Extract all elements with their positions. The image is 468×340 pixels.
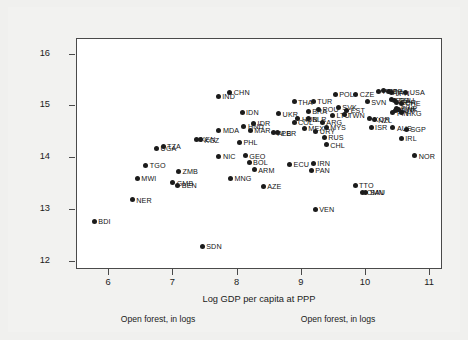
scatter-point-label: IRL xyxy=(405,135,417,142)
scatter-point-label: PHL xyxy=(243,139,257,146)
scatter-point xyxy=(324,125,329,130)
x-axis-tick-label: 8 xyxy=(234,277,239,287)
scatter-point xyxy=(200,244,205,249)
x-axis-tick-label: 10 xyxy=(360,277,370,287)
x-axis-tick xyxy=(429,269,430,275)
scatter-point-label: BOL xyxy=(253,159,268,166)
scatter-point-label: NIC xyxy=(223,153,236,160)
scatter-point xyxy=(320,120,325,125)
scatter-point xyxy=(342,112,347,117)
scatter-point-label: SGP xyxy=(410,126,425,133)
scatter-point-label: IDN xyxy=(246,109,259,116)
scatter-point xyxy=(324,142,329,147)
y-axis-tick-label: 16 xyxy=(40,48,50,58)
scatter-point xyxy=(228,176,233,181)
scatter-point-label: MWI xyxy=(141,175,156,182)
scatter-point-label: VEN xyxy=(319,206,334,213)
scatter-point xyxy=(243,153,248,158)
scatter-point xyxy=(365,99,370,104)
scatter-point-label: TZA xyxy=(167,143,181,150)
scatter-point xyxy=(261,184,266,189)
scatter-point-label: MDA xyxy=(223,127,239,134)
caption-right: Open forest, in logs xyxy=(301,314,376,324)
scatter-point xyxy=(240,110,245,115)
scatter-point xyxy=(330,113,335,118)
x-axis-tick xyxy=(108,269,109,275)
scatter-point-label: CHL xyxy=(330,142,345,149)
scatter-point xyxy=(252,167,257,172)
scatter-point-label: SVN xyxy=(371,99,386,106)
scatter-point-label: BEN xyxy=(182,182,197,189)
scatter-point xyxy=(292,120,297,125)
scatter-point xyxy=(311,99,316,104)
scatter-point xyxy=(390,110,395,115)
scatter-point xyxy=(302,126,307,131)
scatter-point xyxy=(216,94,221,99)
scatter-point xyxy=(313,129,318,134)
y-axis-tick-label: 12 xyxy=(40,255,50,265)
y-axis-tick xyxy=(69,209,75,210)
scatter-plot-area: BDINERMWITGOUGATZAGMBBENZMBKENKGZSDNINDN… xyxy=(76,38,442,269)
scatter-point xyxy=(198,137,203,142)
scatter-point xyxy=(135,176,140,181)
y-axis-tick xyxy=(69,54,75,55)
scatter-point xyxy=(248,128,253,133)
scatter-point xyxy=(306,109,311,114)
scatter-point xyxy=(247,160,252,165)
scatter-point-label: ZMB xyxy=(182,168,197,175)
scatter-point-label: TGO xyxy=(150,162,166,169)
scatter-point-label: CHN xyxy=(234,89,250,96)
scatter-point-label: PER xyxy=(281,130,296,137)
x-axis-tick xyxy=(365,269,366,275)
scatter-point xyxy=(399,136,404,141)
scatter-point-label: PAN xyxy=(315,167,330,174)
scatter-point-label: BDI xyxy=(98,218,110,225)
scatter-point-label: HKG xyxy=(406,110,422,117)
scatter-point xyxy=(154,146,159,151)
scatter-point xyxy=(412,153,417,158)
scatter-point xyxy=(130,197,135,202)
x-axis-tick-label: 6 xyxy=(106,277,111,287)
scatter-point xyxy=(333,92,338,97)
scatter-point xyxy=(92,219,97,224)
scatter-point xyxy=(353,183,358,188)
scatter-point-label: ARM xyxy=(258,167,274,174)
y-axis-tick-label: 13 xyxy=(40,203,50,213)
scatter-point-label: SDN xyxy=(206,243,221,250)
scatter-point xyxy=(216,128,221,133)
scatter-point xyxy=(394,100,399,105)
y-axis-tick xyxy=(69,105,75,106)
scatter-point xyxy=(237,140,242,145)
scatter-point-label: ISR xyxy=(375,124,387,131)
scatter-point xyxy=(390,125,395,130)
scatter-point xyxy=(316,107,321,112)
scatter-point xyxy=(369,125,374,130)
scatter-point-label: NER xyxy=(136,197,151,204)
scatter-point xyxy=(404,127,409,132)
scatter-point xyxy=(322,135,327,140)
scatter-point xyxy=(176,169,181,174)
x-axis-tick xyxy=(237,269,238,275)
scatter-point-label: MYS xyxy=(330,124,346,131)
scatter-point-label: IDR xyxy=(258,120,271,127)
scatter-point xyxy=(287,162,292,167)
scatter-point xyxy=(161,144,166,149)
scatter-point xyxy=(292,99,297,104)
scatter-point xyxy=(344,108,349,113)
scatter-point xyxy=(216,154,221,159)
scatter-point xyxy=(251,121,256,126)
x-axis-tick-label: 11 xyxy=(424,277,434,287)
scatter-point xyxy=(309,168,314,173)
x-axis-tick xyxy=(172,269,173,275)
scatter-point-label: EST xyxy=(351,107,365,114)
scatter-point xyxy=(241,124,246,129)
y-axis-tick xyxy=(69,157,75,158)
x-axis-label: Log GDP per capita at PPP xyxy=(202,294,315,304)
scatter-point xyxy=(313,207,318,212)
scatter-point-label: MNG xyxy=(234,175,251,182)
scatter-point-label: MAR xyxy=(254,127,270,134)
y-axis-tick-label: 15 xyxy=(40,99,50,109)
scatter-point xyxy=(353,92,358,97)
scatter-point-label: SAU xyxy=(370,189,385,196)
scatter-point xyxy=(276,111,281,116)
